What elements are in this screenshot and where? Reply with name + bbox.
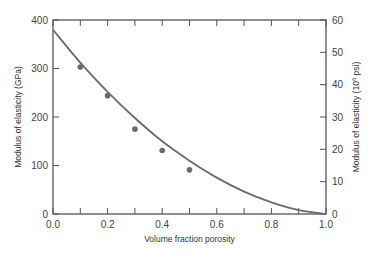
porosity-modulus-chart: 0.00.20.40.60.81.00100200300400010203040… — [0, 0, 368, 254]
y-right-tick-label: 10 — [332, 176, 344, 187]
plot-axes — [53, 20, 326, 214]
y-right-tick-label: 30 — [332, 112, 344, 123]
y-tick-label: 0 — [42, 209, 48, 220]
fitted-curve — [53, 30, 326, 214]
x-tick-label: 0.2 — [101, 219, 115, 230]
data-point — [187, 167, 193, 173]
data-point — [159, 148, 165, 154]
x-tick-label: 1.0 — [319, 219, 333, 230]
curve-path — [53, 30, 326, 214]
x-tick-label: 0.6 — [210, 219, 224, 230]
x-tick-label: 0.4 — [155, 219, 169, 230]
y-tick-label: 100 — [31, 160, 48, 171]
y-right-axis-title: Modulus of elasticity (106 psi) — [351, 62, 362, 173]
x-tick-label: 0.0 — [46, 219, 60, 230]
y-right-tick-label: 60 — [332, 15, 344, 26]
data-point — [132, 126, 138, 132]
y-right-tick-label: 20 — [332, 144, 344, 155]
data-point — [78, 64, 84, 70]
plot-frame — [53, 20, 326, 214]
y-axis-title: Modulus of elasticity (GPa) — [13, 66, 23, 168]
x-tick-label: 0.8 — [264, 219, 278, 230]
y-tick-label: 400 — [31, 15, 48, 26]
y-right-tick-label: 40 — [332, 79, 344, 90]
y-right-tick-label: 50 — [332, 47, 344, 58]
y-right-tick-label: 0 — [332, 209, 338, 220]
axis-labels: 0.00.20.40.60.81.00100200300400010203040… — [13, 15, 361, 245]
y-tick-label: 300 — [31, 63, 48, 74]
data-point — [105, 93, 111, 99]
x-axis-title: Volume fraction porosity — [144, 234, 235, 244]
y-tick-label: 200 — [31, 112, 48, 123]
